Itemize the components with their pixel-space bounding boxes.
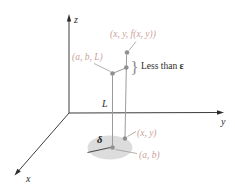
point-abL bbox=[110, 71, 115, 76]
less-than-epsilon-label: Less than ε bbox=[141, 60, 185, 71]
z-axis-label: z bbox=[73, 14, 78, 25]
limit-definition-figure: z y x } Less than ε (x, y, f(x, y)) (a, … bbox=[0, 0, 235, 192]
y-axis bbox=[69, 113, 218, 114]
center-point-label: (a, b) bbox=[139, 150, 160, 161]
delta-symbol-label: δ bbox=[97, 134, 103, 145]
epsilon-brace: } bbox=[131, 58, 139, 77]
point-surface-fxy bbox=[125, 50, 130, 55]
leader-surface-point bbox=[129, 42, 136, 51]
surface-point-label: (x, y, f(x, y)) bbox=[110, 29, 156, 40]
domain-point-label: (x, y) bbox=[137, 128, 157, 139]
segment-L-height bbox=[114, 68, 125, 73]
leader-domain-point bbox=[128, 132, 137, 137]
limit-value-label: L bbox=[101, 98, 108, 109]
x-axis bbox=[19, 113, 70, 171]
leader-limit-point bbox=[94, 64, 111, 72]
epsilon-symbol: ε bbox=[180, 60, 185, 71]
limit-point-label: (a, b, L) bbox=[72, 52, 103, 63]
y-axis-label: y bbox=[220, 116, 226, 127]
less-than-text: Less than bbox=[141, 61, 180, 71]
y-axis-arrow-icon bbox=[217, 110, 224, 114]
x-axis-label: x bbox=[25, 173, 31, 184]
point-ab bbox=[110, 145, 115, 150]
point-xy bbox=[123, 136, 127, 140]
point-L-height-on-xy-line bbox=[124, 65, 129, 70]
epsilon-delta-diagram: z y x } Less than ε (x, y, f(x, y)) (a, … bbox=[0, 0, 235, 192]
z-axis-arrow-icon bbox=[67, 14, 71, 22]
